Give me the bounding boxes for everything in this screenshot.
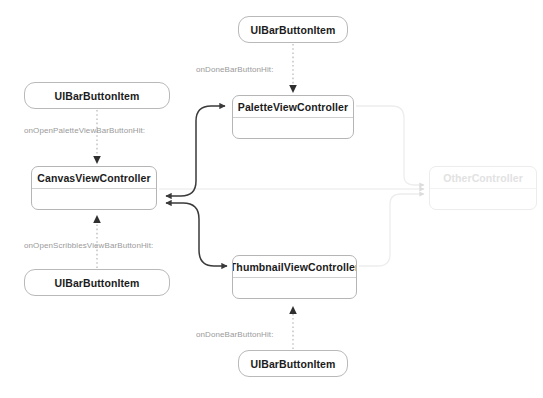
edge-canvas-thumbnail: [166, 203, 227, 266]
node-title: PaletteViewController: [233, 96, 353, 118]
edge-done-thumbnail-action: [289, 306, 297, 349]
node-title: ThumbnailViewController: [233, 256, 356, 278]
node-body: [233, 118, 353, 138]
edge-label-open-palette-view-bar-button-hit: onOpenPaletteViewBarButtonHit:: [24, 126, 145, 135]
edge-done-palette-action: [289, 44, 297, 93]
node-title: CanvasViewController: [32, 167, 156, 189]
edge-label-done-bar-button-hit-thumbnail: onDoneBarButtonHit:: [196, 330, 274, 339]
bar-button-item-open-palette[interactable]: UIBarButtonItem: [24, 82, 170, 109]
bar-button-item-done-thumbnail[interactable]: UIBarButtonItem: [238, 350, 348, 377]
node-label: UIBarButtonItem: [251, 358, 336, 370]
node-label: UIBarButtonItem: [251, 24, 336, 36]
edge-label-done-bar-button-hit-palette: onDoneBarButtonHit:: [196, 65, 274, 74]
node-body: [430, 189, 536, 209]
edge-canvas-palette: [166, 106, 225, 196]
node-body: [32, 189, 156, 209]
edge-open-palette-action: [93, 110, 101, 164]
node-label: UIBarButtonItem: [55, 90, 140, 102]
edge-palette-other: [356, 106, 424, 185]
bar-button-item-open-scribbles[interactable]: UIBarButtonItem: [24, 269, 170, 296]
view-controller-palette[interactable]: PaletteViewController: [232, 95, 354, 139]
bar-button-item-done-palette[interactable]: UIBarButtonItem: [238, 16, 348, 43]
edge-thumbnail-other: [359, 194, 424, 266]
node-body: [233, 278, 356, 298]
diagram-canvas: UIBarButtonItem UIBarButtonItem UIBarBut…: [0, 0, 543, 398]
view-controller-other[interactable]: OtherController: [429, 166, 537, 210]
node-title: OtherController: [430, 167, 536, 189]
view-controller-thumbnail[interactable]: ThumbnailViewController: [232, 255, 357, 299]
node-label: UIBarButtonItem: [55, 277, 140, 289]
edge-label-open-scribbles-view-bar-button-hit: onOpenScribblesViewBarButtonHit:: [24, 241, 153, 250]
view-controller-canvas[interactable]: CanvasViewController: [31, 166, 157, 210]
